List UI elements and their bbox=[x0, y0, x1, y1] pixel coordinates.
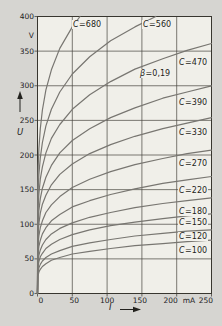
label-symbol: C bbox=[179, 246, 185, 255]
curve-label-390: C=390 bbox=[178, 98, 208, 107]
label-symbol: C bbox=[179, 128, 185, 137]
curve-label-270: C=270 bbox=[178, 159, 208, 168]
label-symbol: C bbox=[179, 159, 185, 168]
x-axis-title: I bbox=[109, 302, 112, 312]
curve-label-100: C=100 bbox=[178, 246, 208, 255]
x-tick-label-0: 0 bbox=[29, 296, 53, 305]
label-symbol: C bbox=[179, 232, 185, 241]
curve-label-680: C=680 bbox=[72, 20, 102, 29]
varistor-characteristics-figure: 400350300250200150100500 050100150200250… bbox=[0, 0, 222, 326]
curve-label-120: C=120 bbox=[178, 232, 208, 241]
y-tick-label-50: 50 bbox=[8, 254, 34, 263]
y-tick-label-150: 150 bbox=[8, 185, 34, 194]
y-axis-unit: V bbox=[8, 31, 34, 40]
label-symbol: β bbox=[140, 69, 145, 78]
label-symbol: C bbox=[179, 186, 185, 195]
y-tick-label-400: 400 bbox=[8, 12, 34, 21]
curve-label-220: C=220 bbox=[178, 186, 208, 195]
x-tick-label-150: 150 bbox=[128, 296, 152, 305]
curve-label-180: C=180 bbox=[178, 207, 208, 216]
x-tick-label-50: 50 bbox=[62, 296, 86, 305]
curve-label-560: C=560 bbox=[142, 20, 172, 29]
label-symbol: C bbox=[179, 58, 185, 67]
curve-label-150: C=150 bbox=[178, 218, 208, 227]
y-tick-label-250: 250 bbox=[8, 116, 34, 125]
y-axis-title: U bbox=[17, 127, 23, 137]
curve-label-330: C=330 bbox=[178, 128, 208, 137]
y-tick-label-100: 100 bbox=[8, 220, 34, 229]
u-axis-arrow-head bbox=[17, 91, 23, 99]
label-symbol: C bbox=[179, 207, 185, 216]
label-symbol: C bbox=[143, 20, 149, 29]
curve-label-470: C=470 bbox=[178, 58, 208, 67]
i-axis-arrow-head bbox=[133, 307, 141, 313]
x-axis-unit: mA bbox=[179, 296, 199, 305]
y-tick-label-350: 350 bbox=[8, 47, 34, 56]
label-symbol: C bbox=[179, 218, 185, 227]
label-symbol: C bbox=[179, 98, 185, 107]
x-tick-label-100: 100 bbox=[95, 296, 119, 305]
y-tick-label-200: 200 bbox=[8, 151, 34, 160]
y-tick-label-300: 300 bbox=[8, 81, 34, 90]
beta-annotation: β=0,19 bbox=[139, 69, 171, 78]
label-symbol: C bbox=[73, 20, 79, 29]
